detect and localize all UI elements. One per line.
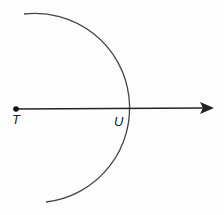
- ray-tu: [16, 108, 206, 109]
- label-u: U: [114, 114, 123, 129]
- point-t: [13, 106, 19, 112]
- diagram-canvas: T U: [0, 0, 224, 215]
- label-t: T: [12, 112, 20, 127]
- geometry-figure: [0, 0, 224, 215]
- arc-centered-at-t: [24, 13, 130, 202]
